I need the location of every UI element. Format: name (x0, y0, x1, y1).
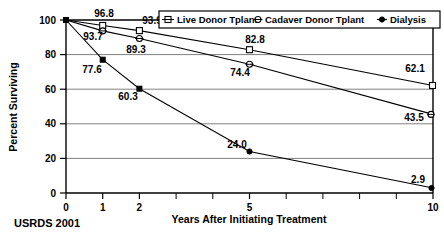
legend-label-cadaver-donor: Cadaver Donor Tplant (265, 14, 365, 25)
legend-item-live-donor-tplant[interactable]: Live Donor Tplant (162, 14, 259, 25)
label-dialysis-y2: 60.3 (118, 91, 138, 102)
x-tick-label-1: 1 (100, 202, 106, 213)
x-ticks (66, 193, 433, 199)
y-ticks (60, 20, 66, 193)
marker-cadaver-y10 (427, 111, 435, 117)
marker-dialysis-y5 (247, 149, 252, 154)
label-live-y1: 96.8 (94, 8, 114, 19)
x-tick-label-0: 0 (63, 202, 69, 213)
chart-canvas: 100 80 60 40 20 0 0 1 2 5 10 Percent Sur… (0, 0, 444, 241)
marker-dialysis-y10 (429, 185, 434, 190)
marker-live-donor-y10 (430, 83, 436, 89)
label-dialysis-y1: 77.6 (82, 64, 102, 75)
label-cadaver-y1: 93.7 (83, 31, 103, 42)
x-tick-labels: 0 1 2 5 10 (63, 202, 439, 213)
label-live-y10: 62.1 (405, 63, 425, 74)
marker-live-donor-y5 (247, 47, 253, 53)
label-cadaver-y2: 89.3 (126, 44, 146, 55)
marker-live-donor-y2 (136, 28, 142, 34)
y-tick-label-60: 60 (45, 84, 57, 95)
y-axis-title: Percent Surviving (7, 62, 19, 151)
x-axis-title: Years After Initiating Treatment (172, 213, 327, 225)
label-cadaver-y10: 43.5 (404, 112, 424, 123)
survival-chart: 100 80 60 40 20 0 0 1 2 5 10 Percent Sur… (0, 0, 444, 241)
x-tick-label-10: 10 (427, 202, 439, 213)
legend-item-cadaver-donor-tplant[interactable]: Cadaver Donor Tplant (254, 14, 366, 25)
legend-label-live-donor: Live Donor Tplant (177, 14, 259, 25)
label-live-y5: 82.8 (245, 34, 265, 45)
label-dialysis-y5: 24.0 (227, 139, 247, 150)
y-tick-label-20: 20 (45, 153, 57, 164)
marker-cadaver-y2 (135, 36, 143, 42)
source-note: USRDS 2001 (14, 217, 80, 229)
chart-legend: Live Donor Tplant Cadaver Donor Tplant D… (159, 11, 440, 28)
legend-label-dialysis: Dialysis (390, 14, 426, 25)
label-dialysis-y10: 2.9 (411, 174, 425, 185)
label-cadaver-y5: 74.4 (230, 67, 250, 78)
marker-dialysis-y0 (64, 18, 69, 23)
series-dialysis-line (66, 20, 433, 188)
y-tick-label-100: 100 (39, 15, 56, 26)
y-tick-label-80: 80 (45, 49, 57, 60)
marker-dialysis-y1 (100, 57, 105, 62)
y-tick-labels: 100 80 60 40 20 0 (39, 15, 56, 199)
y-tick-label-0: 0 (50, 188, 56, 199)
x-tick-label-5: 5 (247, 202, 253, 213)
axes (66, 20, 433, 193)
y-tick-label-40: 40 (45, 118, 57, 129)
x-tick-label-2: 2 (137, 202, 143, 213)
